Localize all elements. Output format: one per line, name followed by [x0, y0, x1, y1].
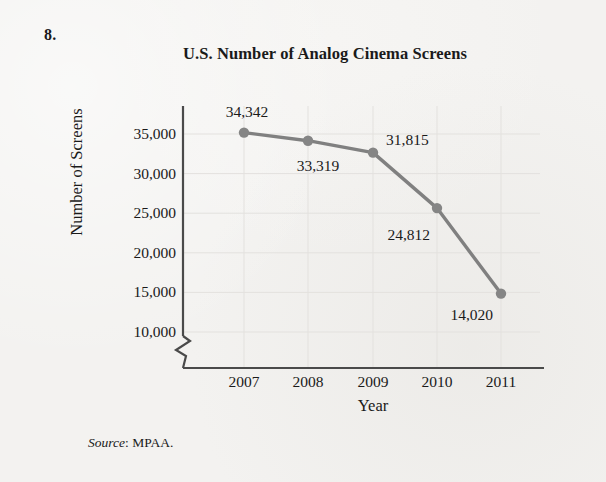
data-label-2007: 34,342	[226, 104, 269, 120]
source-value: MPAA.	[132, 435, 173, 450]
y-axis-break-icon	[176, 336, 190, 368]
x-tick-label: 2007	[229, 374, 260, 390]
data-label-2010: 24,812	[387, 227, 430, 243]
source-label: Source	[88, 435, 125, 450]
x-tick-label: 2008	[293, 374, 324, 390]
y-tick-label: 20,000	[102, 245, 176, 261]
data-point-2008[interactable]	[303, 136, 313, 146]
source-note: Source: MPAA.	[88, 435, 173, 451]
data-point-2010[interactable]	[432, 203, 442, 213]
y-axis-title: Number of Screens	[67, 82, 87, 262]
x-tick-label: 2009	[358, 374, 389, 390]
horizontal-gridlines	[183, 134, 540, 332]
data-label-2009: 31,815	[386, 132, 429, 148]
data-point-2011[interactable]	[496, 288, 506, 298]
data-label-2011: 14,020	[450, 307, 493, 323]
data-point-2009[interactable]	[368, 147, 378, 157]
x-tick-label: 2011	[486, 374, 516, 390]
y-tick-label: 30,000	[102, 166, 176, 182]
vertical-gridlines	[244, 106, 501, 368]
data-label-2008: 33,319	[297, 158, 340, 174]
y-tick-labels: 35,000 30,000 25,000 20,000 15,000 10,00…	[96, 0, 176, 482]
data-point-2007[interactable]	[239, 127, 249, 137]
x-tick-labels: 2007 2008 2009 2010 2011	[0, 374, 606, 396]
y-tick-label: 15,000	[102, 284, 176, 300]
plot-area	[0, 0, 606, 482]
y-tick-label: 10,000	[102, 324, 176, 340]
y-tick-label: 25,000	[102, 205, 176, 221]
x-tick-label: 2010	[422, 374, 453, 390]
x-axis-title: Year	[358, 396, 388, 416]
y-tick-label: 35,000	[102, 126, 176, 142]
line-chart: 35,000 30,000 25,000 20,000 15,000 10,00…	[0, 0, 606, 482]
